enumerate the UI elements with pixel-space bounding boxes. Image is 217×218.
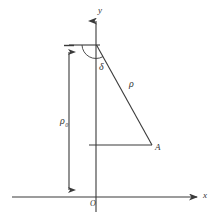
- geometry-figure: y x O δ ρ ρ0 A: [0, 0, 217, 218]
- triangle-hypotenuse: [97, 45, 153, 145]
- x-axis-label: x: [203, 191, 207, 200]
- origin-label: O: [90, 200, 96, 208]
- y-axis-label: y: [98, 6, 102, 15]
- hypotenuse-rho-label: ρ: [129, 79, 134, 89]
- dimension-rho-zero-label: ρ0: [60, 116, 68, 128]
- angle-delta-label: δ: [99, 62, 104, 72]
- point-a-label: A: [155, 143, 161, 152]
- diagram-canvas: [0, 0, 217, 218]
- dimension-subscript-glyph: 0: [65, 122, 68, 128]
